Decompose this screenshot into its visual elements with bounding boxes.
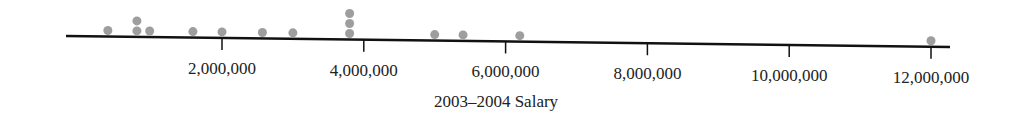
data-dot <box>345 9 354 18</box>
data-dot <box>145 27 154 36</box>
data-dot <box>188 27 197 36</box>
data-dots <box>103 9 935 45</box>
data-dot <box>288 28 297 37</box>
data-dot <box>345 29 354 38</box>
tick-label: 12,000,000 <box>893 68 970 87</box>
x-axis-label: 2003–2004 Salary <box>434 92 559 111</box>
data-dot <box>258 28 267 37</box>
dot-plot: 2,000,0004,000,0006,000,0008,000,00010,0… <box>0 0 1027 120</box>
tick-label: 10,000,000 <box>751 66 828 85</box>
data-dot <box>218 27 227 36</box>
tick-label: 4,000,000 <box>330 61 398 80</box>
tick-labels: 2,000,0004,000,0006,000,0008,000,00010,0… <box>188 59 969 87</box>
tick-label: 8,000,000 <box>613 64 681 83</box>
tick-marks <box>222 38 931 59</box>
data-dot <box>927 36 936 45</box>
tick-label: 6,000,000 <box>472 62 540 81</box>
data-dot <box>459 30 468 39</box>
data-dot <box>132 26 141 35</box>
axis-line <box>66 36 950 47</box>
x-axis: 2,000,0004,000,0006,000,0008,000,00010,0… <box>66 36 969 87</box>
data-dot <box>103 26 112 35</box>
tick-label: 2,000,000 <box>188 59 256 78</box>
data-dot <box>430 30 439 39</box>
data-dot <box>345 19 354 28</box>
data-dot <box>515 31 524 40</box>
data-dot <box>132 16 141 25</box>
